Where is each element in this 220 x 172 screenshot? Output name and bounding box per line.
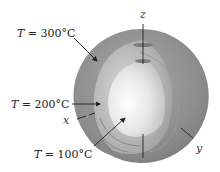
label-300: T = 300°C [17,27,97,61]
svg-text:T = 200°C: T = 200°C [11,98,69,111]
z-axis-label: z [139,8,146,21]
svg-text:T = 100°C: T = 100°C [34,148,92,161]
y-axis-label: y [195,142,203,155]
x-axis-label: x [63,114,70,127]
svg-text:T = 300°C: T = 300°C [17,27,75,40]
isotherm-sphere-diagram: z x y T = 300°C T = 200°C T = 100°C [0,0,220,172]
